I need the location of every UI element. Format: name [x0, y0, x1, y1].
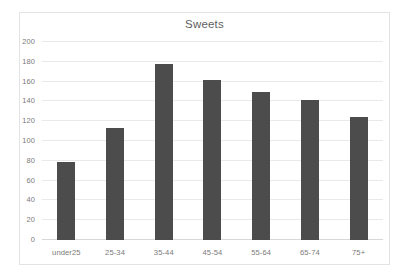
x-axis-tick-label: under25 [52, 248, 81, 257]
y-axis-tick-label: 200 [22, 37, 35, 46]
bar [252, 92, 270, 241]
bar-group: under25 [42, 42, 91, 240]
y-axis-tick-label: 20 [27, 215, 35, 224]
bar-group: 45-54 [188, 42, 237, 240]
bar-group: 35-44 [139, 42, 188, 240]
bar-series: under2525-3435-4445-5455-6465-7475+ [42, 42, 383, 240]
x-axis-tick-label: 25-34 [105, 248, 125, 257]
bar [57, 162, 75, 240]
x-axis-tick-label: 35-44 [154, 248, 174, 257]
y-axis-tick-label: 140 [22, 96, 35, 105]
bar-group: 25-34 [91, 42, 140, 240]
y-axis-tick-label: 60 [27, 175, 35, 184]
plot-area: 020406080100120140160180200 under2525-34… [42, 42, 383, 240]
y-axis-tick-label: 80 [27, 155, 35, 164]
chart-title: Sweets [20, 18, 389, 30]
x-axis-tick-label: 75+ [352, 248, 365, 257]
x-axis-tick-label: 65-74 [300, 248, 320, 257]
bar [203, 80, 221, 240]
y-axis-tick-label: 160 [22, 76, 35, 85]
y-axis-tick-label: 40 [27, 195, 35, 204]
bar [155, 64, 173, 240]
x-axis-tick-label: 55-64 [251, 248, 271, 257]
chart-figure: Sweets 020406080100120140160180200 under… [19, 12, 390, 265]
bar [301, 100, 319, 240]
y-axis-tick-label: 120 [22, 116, 35, 125]
x-axis-tick-label: 45-54 [203, 248, 223, 257]
bar [350, 117, 368, 240]
y-axis-tick-label: 100 [22, 136, 35, 145]
y-axis-tick-label: 180 [22, 56, 35, 65]
bar-group: 65-74 [286, 42, 335, 240]
bar [106, 128, 124, 240]
bar-group: 55-64 [237, 42, 286, 240]
y-axis-tick-label: 0 [31, 235, 35, 244]
bar-group: 75+ [334, 42, 383, 240]
